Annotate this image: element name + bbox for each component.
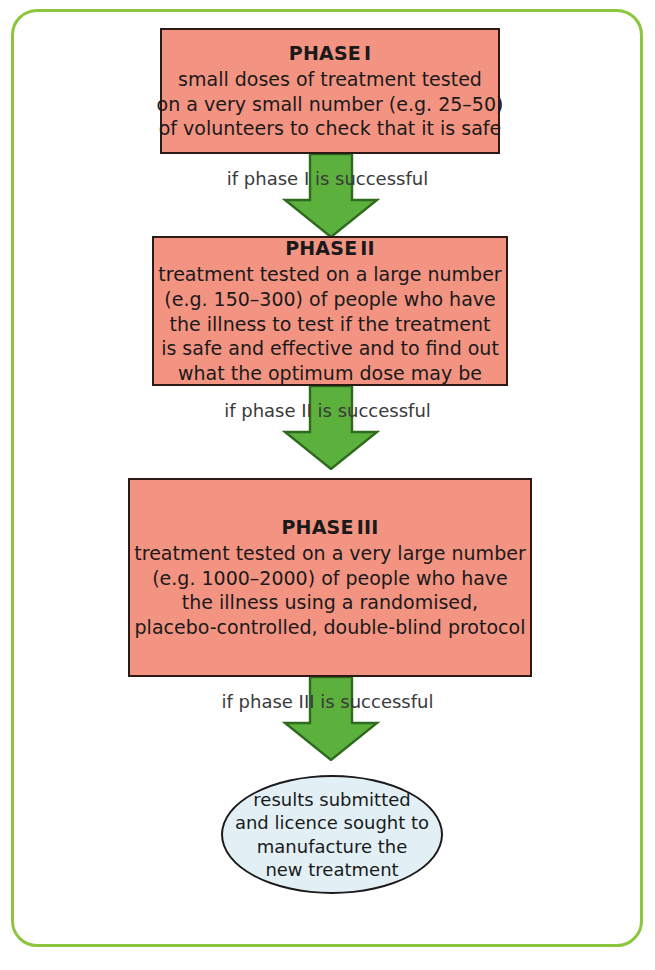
phase-numeral-2: II	[360, 237, 375, 259]
outcome-line: and licence sought to	[235, 811, 429, 834]
phase-numeral-3: III	[357, 516, 379, 538]
phase-body-line: (e.g. 150–300) of people who have	[158, 287, 501, 312]
phase-body-line: is safe and effective and to find out	[158, 336, 501, 361]
phase-body-1: small doses of treatment tested on a ver…	[151, 67, 510, 141]
phase-box-1: PHASEI small doses of treatment tested o…	[160, 28, 500, 154]
phase-body-line: of volunteers to check that it is safe	[157, 116, 504, 141]
phase-body-line: the illness using a randomised,	[134, 590, 525, 615]
connector-label-3: if phase III is successful	[0, 691, 655, 712]
phase-title-1: PHASEI	[289, 41, 371, 66]
phase-body-line: treatment tested on a large number	[158, 262, 501, 287]
outcome-line: manufacture the	[257, 835, 407, 858]
phase-title-3: PHASEIII	[281, 515, 378, 540]
phase-title-word-1: PHASE	[289, 42, 361, 64]
connector-label-1: if phase I is successful	[0, 168, 655, 189]
phase-body-line: placebo-controlled, double-blind protoco…	[134, 615, 525, 640]
phase-body-line: the illness to test if the treatment	[158, 312, 501, 337]
phase-body-line: small doses of treatment tested	[157, 67, 504, 92]
phase-body-line: on a very small number (e.g. 25–50)	[157, 92, 504, 117]
phase-title-2: PHASEII	[285, 236, 375, 261]
phase-title-word-2: PHASE	[285, 237, 357, 259]
connector-arrow-3	[271, 677, 391, 761]
phase-numeral-1: I	[364, 42, 371, 64]
connector-label-2: if phase II is successful	[0, 400, 655, 421]
connector-arrow-1	[271, 154, 391, 238]
phase-body-3: treatment tested on a very large number …	[128, 541, 531, 640]
phase-body-2: treatment tested on a large number (e.g.…	[152, 262, 507, 385]
phase-box-2: PHASEII treatment tested on a large numb…	[152, 236, 508, 386]
phase-body-line: (e.g. 1000–2000) of people who have	[134, 566, 525, 591]
phase-body-line: treatment tested on a very large number	[134, 541, 525, 566]
outcome-ellipse: results submitted and licence sought to …	[221, 775, 443, 894]
outcome-line: results submitted	[253, 788, 410, 811]
phase-title-word-3: PHASE	[281, 516, 353, 538]
diagram-canvas: PHASEI small doses of treatment tested o…	[0, 0, 655, 970]
phase-box-3: PHASEIII treatment tested on a very larg…	[128, 478, 532, 677]
phase-body-line: what the optimum dose may be	[158, 361, 501, 386]
outcome-line: new treatment	[265, 858, 398, 881]
connector-arrow-2	[271, 386, 391, 470]
